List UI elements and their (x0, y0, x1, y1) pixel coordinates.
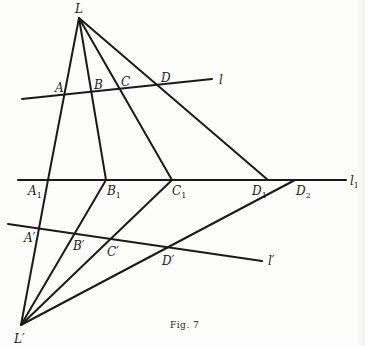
label-C: C (121, 75, 130, 89)
label-B-prime: B′ (72, 239, 85, 253)
label-D: D (160, 71, 171, 85)
label-A-prime: A′ (23, 231, 36, 245)
label-C1: C1 (172, 184, 186, 200)
figure-caption: Fig. 7 (170, 320, 199, 330)
label-C-prime: C′ (107, 245, 119, 259)
label-line-l-prime: l′ (268, 254, 275, 268)
page-edge-shadow (357, 0, 365, 346)
line-l (22, 79, 212, 99)
label-D-prime: D′ (161, 254, 175, 268)
label-line-l: l (219, 73, 223, 87)
label-A1: A1 (27, 184, 42, 200)
projective-figure: L L′ l l1 l′ A B C D A1 B1 C1 D1 D2 A′ B… (0, 0, 365, 346)
ray-L-D1 (79, 18, 268, 180)
line-l-prime (8, 224, 262, 261)
label-D1: D1 (251, 184, 267, 200)
label-A: A (54, 81, 64, 95)
ray-Lp-D2 (21, 180, 295, 325)
label-B1: B1 (106, 184, 121, 200)
ray-L-A1 (48, 18, 79, 180)
label-D2: D2 (295, 184, 311, 200)
label-B: B (93, 78, 103, 92)
label-L: L (74, 2, 83, 16)
label-L-prime: L′ (13, 332, 25, 346)
